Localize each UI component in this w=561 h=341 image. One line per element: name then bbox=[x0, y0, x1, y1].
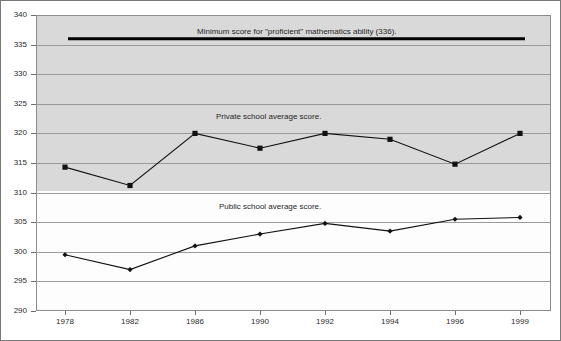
annotation-public-school-series: Public school average score. bbox=[219, 202, 321, 211]
annotation-private-school-series: Private school average score. bbox=[216, 112, 321, 121]
y-axis-label-325: 325 bbox=[0, 100, 27, 108]
y-axis-label-320: 320 bbox=[0, 129, 27, 137]
y-axis-tick-295 bbox=[31, 281, 36, 282]
x-axis-tick-1992 bbox=[325, 311, 326, 315]
data-point-marker bbox=[387, 228, 392, 233]
x-axis-tick-1986 bbox=[195, 311, 196, 315]
x-axis-tick-1994 bbox=[390, 311, 391, 315]
x-axis-label-1994: 1994 bbox=[360, 318, 420, 326]
data-point-marker bbox=[127, 267, 132, 272]
data-point-marker bbox=[192, 131, 197, 136]
x-axis-label-1982: 1982 bbox=[100, 318, 160, 326]
series-line-public bbox=[65, 217, 520, 269]
y-axis-tick-325 bbox=[31, 104, 36, 105]
data-series-layer bbox=[36, 15, 551, 311]
data-point-marker bbox=[322, 131, 327, 136]
y-axis-tick-320 bbox=[31, 133, 36, 134]
y-axis-tick-310 bbox=[31, 193, 36, 194]
data-point-marker bbox=[62, 252, 67, 257]
math-scores-line-chart: 340335330325320315310305300295290 197819… bbox=[0, 0, 561, 341]
y-axis-tick-340 bbox=[31, 15, 36, 16]
data-point-marker bbox=[127, 183, 132, 188]
x-axis-tick-1990 bbox=[260, 311, 261, 315]
y-axis-tick-330 bbox=[31, 74, 36, 75]
x-axis-label-1996: 1996 bbox=[425, 318, 485, 326]
y-axis-label-300: 300 bbox=[0, 248, 27, 256]
y-axis-label-290: 290 bbox=[0, 307, 27, 315]
y-axis-tick-300 bbox=[31, 252, 36, 253]
data-point-marker bbox=[257, 146, 262, 151]
data-point-marker bbox=[517, 215, 522, 220]
y-axis-tick-315 bbox=[31, 163, 36, 164]
data-point-marker bbox=[192, 243, 197, 248]
data-point-marker bbox=[452, 162, 457, 167]
y-axis-label-335: 335 bbox=[0, 41, 27, 49]
y-axis-tick-305 bbox=[31, 222, 36, 223]
data-point-marker bbox=[322, 221, 327, 226]
x-axis-tick-1982 bbox=[130, 311, 131, 315]
data-point-marker bbox=[517, 131, 522, 136]
data-point-marker bbox=[62, 165, 67, 170]
data-point-marker bbox=[387, 137, 392, 142]
x-axis-label-1990: 1990 bbox=[230, 318, 290, 326]
y-axis-label-340: 340 bbox=[0, 11, 27, 19]
y-axis-tick-290 bbox=[31, 311, 36, 312]
y-axis-label-330: 330 bbox=[0, 70, 27, 78]
y-axis-label-310: 310 bbox=[0, 189, 27, 197]
annotation-proficiency-threshold: Minimum score for "proficient" mathemati… bbox=[197, 27, 397, 36]
y-axis-label-295: 295 bbox=[0, 277, 27, 285]
x-axis-label-1978: 1978 bbox=[35, 318, 95, 326]
plot-area bbox=[36, 15, 551, 311]
series-line-private bbox=[65, 133, 520, 185]
data-point-marker bbox=[452, 217, 457, 222]
x-axis-tick-1999 bbox=[520, 311, 521, 315]
y-axis-label-305: 305 bbox=[0, 218, 27, 226]
x-axis-label-1999: 1999 bbox=[490, 318, 550, 326]
y-axis-tick-335 bbox=[31, 45, 36, 46]
x-axis-label-1986: 1986 bbox=[165, 318, 225, 326]
x-axis-label-1992: 1992 bbox=[295, 318, 355, 326]
x-axis-tick-1996 bbox=[455, 311, 456, 315]
data-point-marker bbox=[257, 231, 262, 236]
y-axis-label-315: 315 bbox=[0, 159, 27, 167]
x-axis-tick-1978 bbox=[65, 311, 66, 315]
